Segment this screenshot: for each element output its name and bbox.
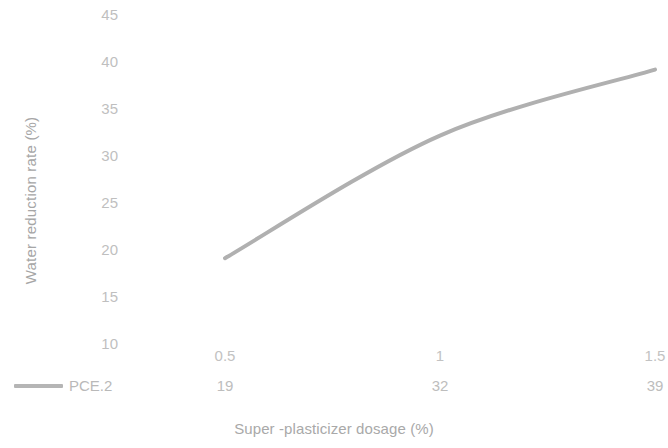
x-axis-tick-labels: 0.5 1 1.5: [0, 348, 668, 372]
y-tick-label: 20: [70, 242, 118, 257]
series-line-pce2: [225, 70, 655, 259]
y-tick-label: 45: [70, 7, 118, 22]
x-tick-label: 0.5: [215, 348, 236, 363]
legend: PCE.2: [14, 378, 112, 393]
data-value: 19: [217, 378, 234, 393]
y-tick-label: 30: [70, 148, 118, 163]
y-tick-label: 25: [70, 195, 118, 210]
data-value: 39: [647, 378, 664, 393]
y-axis-tick-labels: 45 40 35 30 25 20 15 10: [70, 0, 118, 360]
y-tick-label: 40: [70, 54, 118, 69]
x-axis-title: Super -plasticizer dosage (%): [0, 420, 668, 437]
chart-container: Water reduction rate (%) 45 40 35 30 25 …: [0, 0, 668, 448]
y-tick-label: 35: [70, 101, 118, 116]
x-tick-label: 1.5: [645, 348, 666, 363]
x-tick-label: 1: [436, 348, 444, 363]
y-tick-label: 15: [70, 289, 118, 304]
plot-area: [130, 0, 668, 350]
y-axis-title: Water reduction rate (%): [22, 71, 39, 331]
data-value: 32: [432, 378, 449, 393]
legend-label-pce2: PCE.2: [69, 378, 112, 393]
legend-line-swatch-icon: [14, 384, 63, 388]
series-line-svg: [130, 0, 668, 350]
